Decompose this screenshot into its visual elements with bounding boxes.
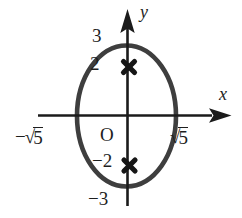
y-intercept-3-label: 3 [92, 26, 102, 45]
x-axis-label: x [219, 85, 227, 103]
x-intercept-sqrt5-label: √5 [170, 127, 188, 147]
lower-focus-cross-marker-icon [124, 160, 135, 171]
y-intercept-minus-3-label: −3 [88, 189, 108, 208]
coordinate-plane-figure: y x O 3 2 −2 −3 −√5 √5 [0, 0, 242, 218]
origin-label: O [100, 125, 114, 144]
y-axis-label: y [140, 3, 148, 21]
x-intercept-minus-sqrt5-label: −√5 [15, 127, 43, 147]
lower-focus-minus-2-label: −2 [92, 151, 112, 170]
minus-radicand: 5 [33, 127, 43, 147]
minus-radical-sign: −√ [15, 127, 34, 146]
radicand: 5 [178, 127, 188, 147]
x-axis-arrowhead-icon [209, 108, 232, 123]
figure-drawing [0, 0, 242, 218]
upper-focus-cross-marker-icon [124, 62, 135, 73]
upper-focus-2-label: 2 [90, 54, 100, 73]
